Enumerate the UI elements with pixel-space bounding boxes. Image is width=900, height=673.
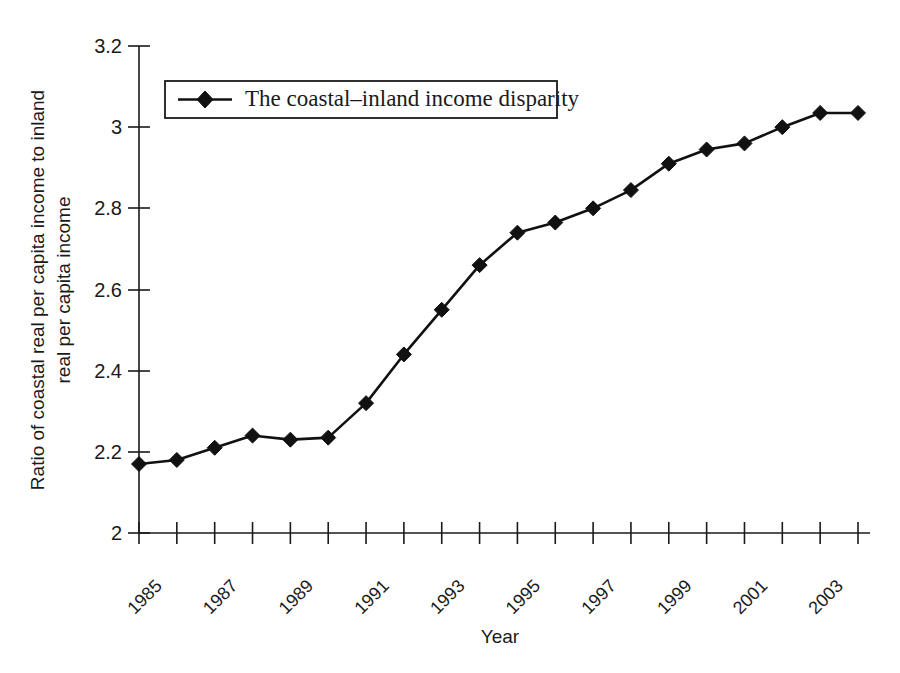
y-axis-title: Ratio of coastal real per capita income … [27, 90, 74, 490]
x-tick-label-1997: 1997 [577, 576, 619, 618]
data-point-1997 [586, 201, 601, 216]
x-tick-label-1985: 1985 [123, 576, 165, 618]
data-point-1989 [283, 432, 298, 447]
x-tick-label-2001: 2001 [729, 576, 771, 618]
x-tick-label-1993: 1993 [426, 576, 468, 618]
x-axis-ticks: 1985198719891991199319951997199920012003 [123, 522, 858, 618]
x-tick-label-1999: 1999 [653, 576, 695, 618]
x-tick-label-1989: 1989 [275, 576, 317, 618]
data-point-1998 [623, 183, 638, 198]
x-axis-title: Year [481, 626, 520, 647]
data-point-2004 [851, 105, 866, 120]
series-coastal-inland-disparity [132, 105, 866, 471]
chart-page: Ratio of coastal real per capita income … [0, 0, 900, 673]
x-tick-label-1995: 1995 [502, 576, 544, 618]
y-tick-label-2.2: 2.2 [94, 441, 122, 463]
x-tick-label-1991: 1991 [350, 576, 392, 618]
data-point-1996 [548, 215, 563, 230]
x-tick-label-2003: 2003 [805, 576, 847, 618]
y-axis-title-line1: Ratio of coastal real per capita income … [27, 90, 48, 490]
y-tick-label-2: 2 [111, 522, 122, 544]
data-point-1985 [132, 457, 147, 472]
data-point-1987 [207, 440, 222, 455]
x-tick-label-1987: 1987 [199, 576, 241, 618]
y-tick-label-3.2: 3.2 [94, 35, 122, 57]
data-point-2001 [737, 136, 752, 151]
data-point-1988 [245, 428, 260, 443]
y-axis-title-line2: real per capita income [53, 197, 74, 384]
y-tick-label-2.4: 2.4 [94, 360, 122, 382]
line-chart: Ratio of coastal real per capita income … [0, 0, 900, 673]
legend: The coastal–inland income disparity [165, 81, 580, 118]
series-markers [132, 105, 866, 471]
data-point-1999 [661, 156, 676, 171]
legend-label-0: The coastal–inland income disparity [245, 86, 580, 111]
series-line [139, 113, 858, 464]
y-tick-label-3: 3 [111, 116, 122, 138]
data-point-2002 [775, 120, 790, 135]
data-point-2003 [813, 105, 828, 120]
data-point-1986 [169, 452, 184, 467]
data-point-2000 [699, 142, 714, 157]
y-tick-label-2.8: 2.8 [94, 197, 122, 219]
y-tick-label-2.6: 2.6 [94, 279, 122, 301]
